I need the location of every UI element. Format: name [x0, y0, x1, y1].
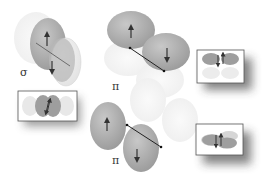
pi-top-label: π	[112, 80, 119, 93]
inset-pi-bottom	[196, 124, 251, 164]
faint-lobe	[130, 78, 166, 122]
pi-lobe-right	[123, 124, 159, 172]
pi-bottom-orbital-group	[90, 78, 198, 172]
inset-sigma	[18, 91, 80, 126]
pi-bottom-label: π	[112, 154, 119, 167]
inset-pi-top	[197, 50, 252, 90]
pi-lobe-left	[90, 102, 126, 150]
sigma-label: σ	[20, 66, 28, 79]
faint-lobe	[162, 98, 198, 142]
pi-lobe-lower	[142, 33, 190, 71]
orbital-diagram	[0, 0, 279, 182]
